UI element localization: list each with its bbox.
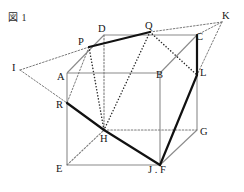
- segment-P-H: [89, 47, 104, 130]
- segment-Q-H: [104, 32, 150, 130]
- segment-P-R: [67, 47, 89, 103]
- edge-E-H: [67, 130, 104, 165]
- vertex-label-G: G: [200, 127, 208, 138]
- vertex-label-P: P: [78, 37, 84, 48]
- segment-J-L: [160, 75, 197, 165]
- cross-section-outline: [67, 32, 197, 165]
- vertex-label-JF: J . F: [148, 165, 166, 176]
- edge-F-G: [160, 130, 197, 165]
- vertex-label-D: D: [98, 24, 106, 35]
- vertex-label-C: C: [196, 32, 203, 43]
- vertex-label-E: E: [56, 164, 62, 175]
- cube-diagram: [0, 0, 244, 192]
- segment-I-P: [20, 47, 89, 70]
- vertex-label-A: A: [57, 72, 65, 83]
- edge-A-D: [67, 35, 104, 73]
- vertex-label-B: B: [156, 70, 163, 81]
- vertex-label-I: I: [12, 63, 16, 74]
- vertex-label-L: L: [200, 68, 206, 79]
- vertex-label-H: H: [100, 134, 108, 145]
- segment-K-Q: [150, 22, 222, 32]
- vertex-label-R: R: [56, 100, 63, 111]
- vertex-label-K: K: [222, 11, 230, 22]
- figure-page: 図 1 DQKCPIABLRGHEJ . F: [0, 0, 244, 192]
- segment-R-H: [67, 103, 104, 130]
- segment-H-J: [104, 130, 160, 165]
- edge-B-C: [160, 35, 197, 73]
- vertex-label-Q: Q: [145, 21, 153, 32]
